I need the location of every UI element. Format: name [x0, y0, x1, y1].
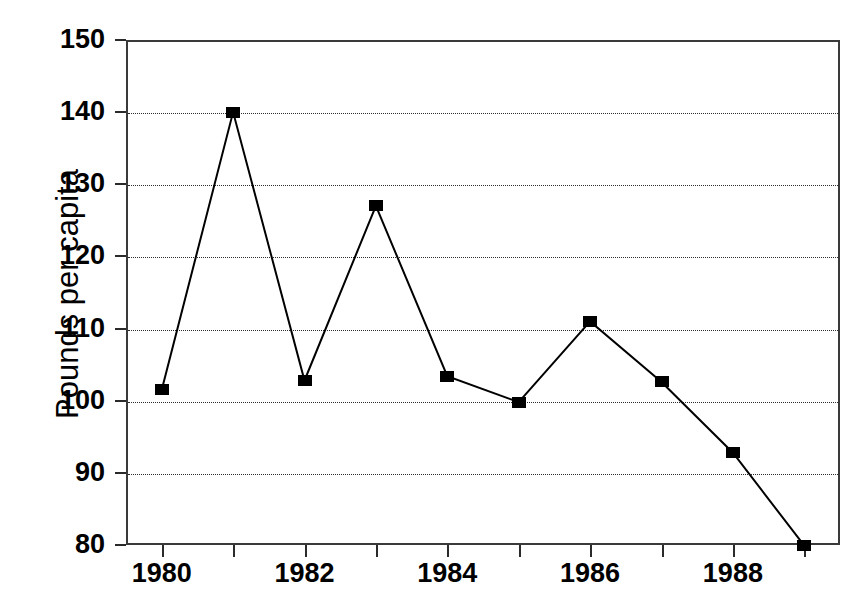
chart-figure: Pounds per capita 1501401301201101009080… [0, 0, 866, 612]
data-point-marker [226, 107, 240, 118]
data-point-marker [298, 375, 312, 386]
data-point-marker [726, 447, 740, 458]
data-point-marker [440, 371, 454, 382]
data-point-marker [655, 376, 669, 387]
data-point-marker [583, 316, 597, 327]
data-point-marker [512, 397, 526, 408]
data-series-line [0, 0, 866, 612]
data-point-marker [797, 540, 811, 551]
data-point-marker [369, 200, 383, 211]
data-point-marker [155, 384, 169, 395]
